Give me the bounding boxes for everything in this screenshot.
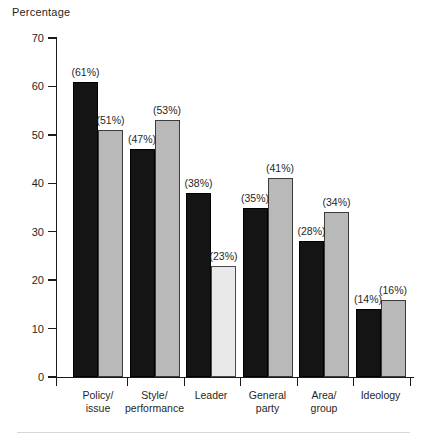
plot-area: [57, 38, 414, 377]
y-tick-10: [48, 328, 57, 329]
y-tick-label-10: 10: [4, 323, 44, 335]
bar-series1-1: [130, 149, 155, 377]
y-tick-label-40: 40: [4, 177, 44, 189]
bar-label-series2-1: (53%): [153, 104, 181, 116]
bar-label-series1-4: (28%): [297, 225, 325, 237]
y-tick-label-70: 70: [4, 32, 44, 44]
bar-series2-1: [155, 120, 180, 377]
bar-label-series1-3: (35%): [241, 192, 269, 204]
category-label-4: Area/ group: [311, 389, 338, 415]
bar-label-series2-3: (41%): [266, 162, 294, 174]
bar-series1-3: [243, 208, 268, 378]
bar-label-series2-2: (23%): [209, 250, 237, 262]
y-tick-50: [48, 134, 57, 135]
y-tick-60: [48, 86, 57, 87]
bar-label-series2-5: (16%): [379, 284, 407, 296]
y-tick-20: [48, 279, 57, 280]
bar-series1-2: [186, 193, 211, 377]
y-tick-label-30: 30: [4, 226, 44, 238]
y-tick-label-0: 0: [4, 371, 44, 383]
bar-series2-3: [268, 178, 293, 377]
bar-series1-4: [299, 241, 324, 377]
category-label-0: Policy/ issue: [83, 389, 114, 415]
y-tick-70: [48, 37, 57, 38]
x-axis-line: [56, 377, 414, 378]
x-tick-2: [240, 378, 241, 386]
bar-label-series1-1: (47%): [128, 133, 156, 145]
x-tick-origin: [56, 378, 57, 386]
x-tick-0: [127, 378, 128, 386]
bar-label-series1-0: (61%): [71, 66, 99, 78]
bar-series1-0: [73, 82, 98, 377]
bar-label-series2-4: (34%): [322, 196, 350, 208]
bar-series2-4: [324, 212, 349, 377]
bar-label-series1-5: (14%): [354, 293, 382, 305]
bar-label-series2-0: (51%): [96, 114, 124, 126]
bar-series2-0: [98, 130, 123, 377]
bar-chart-figure: Percentage 010203040506070 (61%)(51%)(47…: [0, 0, 427, 442]
x-tick-3: [297, 378, 298, 386]
category-label-1: Style/ performance: [125, 389, 184, 415]
x-tick-5: [410, 378, 411, 386]
y-tick-label-50: 50: [4, 129, 44, 141]
category-label-3: General party: [249, 389, 286, 415]
bar-series1-5: [356, 309, 381, 377]
bar-label-series1-2: (38%): [184, 177, 212, 189]
y-tick-30: [48, 231, 57, 232]
bar-series2-5: [381, 300, 406, 377]
category-label-5: Ideology: [361, 389, 401, 402]
footer-divider: [17, 432, 410, 433]
bar-series2-2: [211, 266, 236, 377]
y-tick-label-60: 60: [4, 80, 44, 92]
y-axis-title: Percentage: [12, 6, 70, 18]
y-tick-label-20: 20: [4, 274, 44, 286]
x-tick-1: [184, 378, 185, 386]
category-label-2: Leader: [195, 389, 228, 402]
y-tick-40: [48, 183, 57, 184]
x-tick-4: [353, 378, 354, 386]
